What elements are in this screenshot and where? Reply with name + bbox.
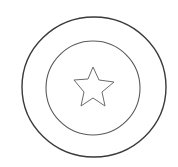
- inner-ring: [46, 41, 140, 135]
- outer-ring: [22, 17, 166, 157]
- shield-drawing: [0, 0, 178, 167]
- star-icon: [74, 67, 114, 106]
